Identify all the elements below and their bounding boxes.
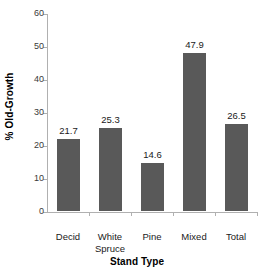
y-axis-title: % Old-Growth [0,0,20,212]
y-tick-label: 10 [34,173,44,184]
x-category-label-total: Total [215,231,257,243]
x-tick-mark [173,212,174,216]
bar-white-spruce[interactable]: 25.3 [99,128,122,212]
bar-value-label: 47.9 [185,39,204,50]
x-category-label-white-spruce: White Spruce [89,231,131,255]
x-axis-line [47,212,258,213]
y-tick-label: 30 [34,107,44,118]
y-axis-line [47,14,48,213]
bar-chart-figure: % Old-Growth 0 10 20 30 40 50 [0,0,274,273]
bar-value-label: 25.3 [101,114,120,125]
y-tick-label: 20 [34,140,44,151]
y-tick-label: 60 [34,8,44,19]
x-category-label-mixed: Mixed [173,231,215,243]
x-tick-mark [215,212,216,216]
plot-area: 0 10 20 30 40 50 60 [47,14,258,212]
y-axis-title-text: % Old-Growth [5,72,16,140]
x-axis-title: Stand Type [0,256,274,267]
bar-pine[interactable]: 14.6 [141,163,164,211]
bar-value-label: 26.5 [227,110,246,121]
bar-value-label: 14.6 [143,149,162,160]
bar-decid[interactable]: 21.7 [57,139,80,211]
x-category-label-pine: Pine [131,231,173,243]
bar-value-label: 21.7 [59,125,78,136]
x-tick-mark [257,212,258,216]
bar-mixed[interactable]: 47.9 [183,53,206,211]
y-tick-label: 0 [39,206,44,217]
y-tick-label: 40 [34,74,44,85]
x-tick-mark [131,212,132,216]
y-tick-label: 50 [34,41,44,52]
x-category-label-decid: Decid [47,231,89,243]
bar-total[interactable]: 26.5 [225,124,248,212]
x-tick-mark [89,212,90,216]
